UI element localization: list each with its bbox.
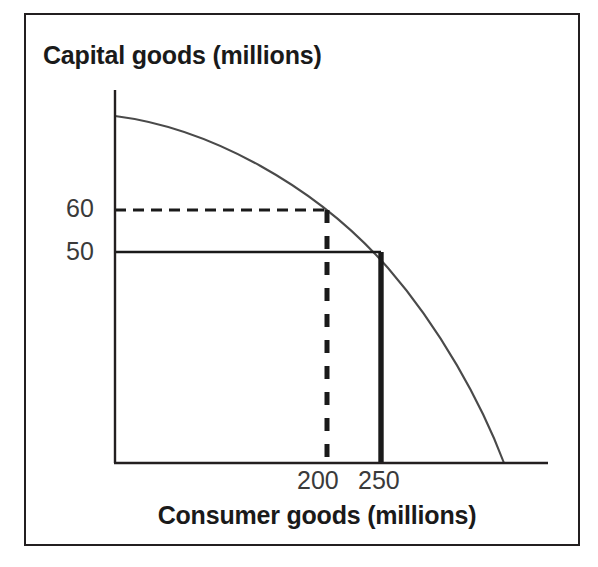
x-axis-tick-label-200: 200 [297, 466, 339, 495]
y-axis-tick-label-50: 50 [66, 237, 94, 266]
y-axis-tick-label-60: 60 [66, 194, 94, 223]
x-axis-tick-label-250: 250 [358, 466, 400, 495]
ppf-curve [115, 116, 504, 463]
x-axis-title: Consumer goods (millions) [0, 501, 598, 530]
chart-page: Capital goods (millions) Consumer goods … [0, 0, 598, 567]
y-axis-title: Capital goods (millions) [43, 41, 322, 70]
